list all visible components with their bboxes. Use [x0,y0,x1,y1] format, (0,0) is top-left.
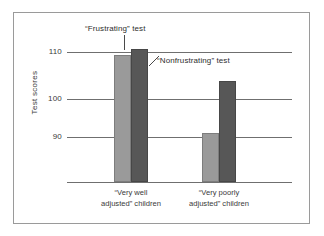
plot-area: 110 100 90 Test scores “Very well adjust… [0,0,324,236]
bar-group1-nonfrustrating [131,49,148,182]
x-category-label-group2: “Very poorly adjusted” children [164,187,274,209]
gridline-100 [67,99,292,100]
x-category-label-group2-line1: “Very poorly [164,187,274,198]
y-tick-label-100: 100 [22,94,62,103]
gridline-110 [67,52,292,53]
bar-group1-frustrating [114,55,131,182]
gridline-90 [67,137,292,138]
annotation-frustrating-test: “Frustrating” test [85,24,145,33]
x-axis-baseline [67,182,292,183]
x-category-label-group2-line2: adjusted” children [164,198,274,209]
y-tick-label-110: 110 [22,47,62,56]
y-axis-title: Test scores [30,55,39,131]
leader-line-nonfrustrating [148,55,160,67]
bar-group2-nonfrustrating [219,81,236,182]
y-tick-label-90: 90 [22,132,62,141]
bar-chart-figure: 110 100 90 Test scores “Very well adjust… [0,0,324,236]
annotation-nonfrustrating-test: “Nonfrustrating” test [157,56,230,65]
bar-group2-frustrating [202,133,219,182]
leader-line-frustrating [124,35,125,50]
